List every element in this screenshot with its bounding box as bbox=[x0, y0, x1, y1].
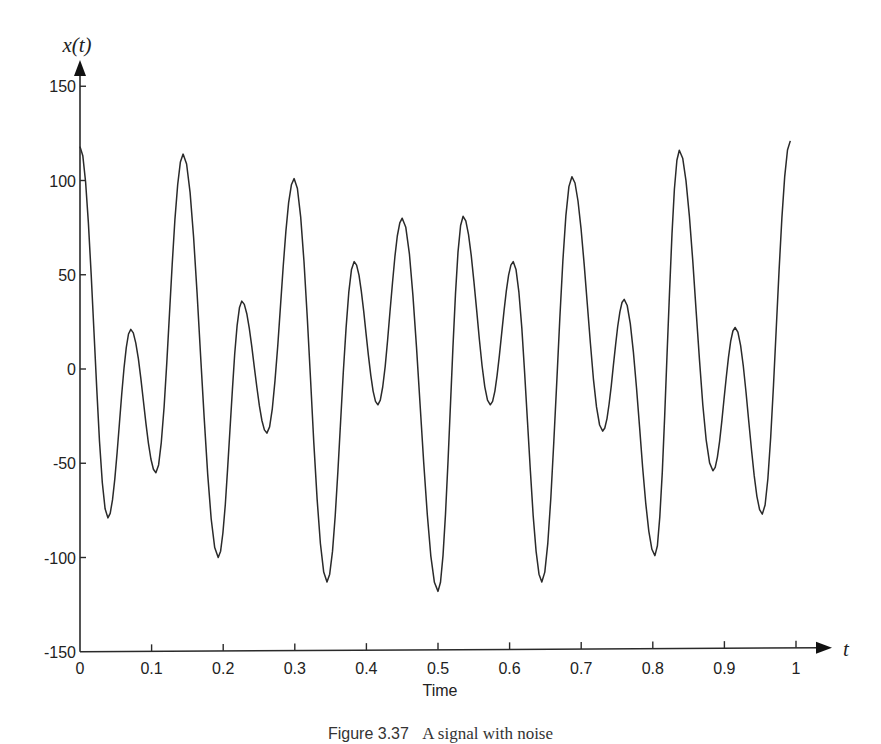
y-tick-label: -150 bbox=[44, 644, 76, 661]
x-tick-label: 0.1 bbox=[140, 660, 162, 677]
x-tick-label: 1 bbox=[792, 660, 801, 677]
x-axis-title: Time bbox=[423, 682, 458, 699]
x-axis-symbol: t bbox=[843, 637, 850, 661]
x-axis-line bbox=[80, 648, 822, 652]
y-axis-arrow-icon bbox=[74, 60, 86, 76]
x-axis-arrow-icon bbox=[816, 642, 832, 654]
x-tick-label: 0.2 bbox=[212, 660, 234, 677]
x-tick-label: 0.6 bbox=[498, 660, 520, 677]
x-tick-label: 0 bbox=[76, 660, 85, 677]
figure-caption-text: A signal with noise bbox=[422, 724, 553, 743]
plot-area bbox=[80, 141, 790, 592]
x-tick-label: 0.9 bbox=[713, 660, 735, 677]
y-axis: x(t)150100500-50-100-150 bbox=[44, 33, 92, 661]
x-tick-label: 0.4 bbox=[355, 660, 377, 677]
y-axis-title: x(t) bbox=[61, 33, 91, 57]
y-tick-label: -50 bbox=[53, 455, 76, 472]
x-tick-label: 0.8 bbox=[642, 660, 664, 677]
y-tick-label: 150 bbox=[49, 78, 76, 95]
signal-line bbox=[80, 141, 790, 592]
y-tick-label: -100 bbox=[44, 550, 76, 567]
x-tick-label: 0.3 bbox=[284, 660, 306, 677]
x-tick-label: 0.7 bbox=[570, 660, 592, 677]
figure-number: Figure 3.37 bbox=[328, 725, 409, 742]
x-axis: t00.10.20.30.40.50.60.70.80.91Time bbox=[76, 637, 851, 699]
x-tick-label: 0.5 bbox=[427, 660, 449, 677]
figure-caption: Figure 3.37 A signal with noise bbox=[0, 724, 881, 744]
y-tick-label: 50 bbox=[58, 267, 76, 284]
y-tick-label: 100 bbox=[49, 173, 76, 190]
y-tick-label: 0 bbox=[67, 361, 76, 378]
